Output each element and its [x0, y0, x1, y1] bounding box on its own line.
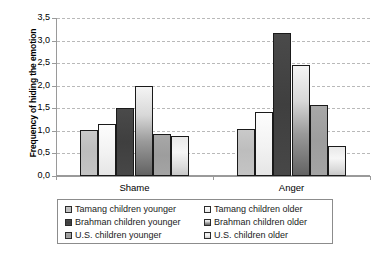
x-axis-group-separator [56, 176, 57, 180]
bar [116, 108, 134, 176]
legend-item: U.S. children younger [65, 229, 181, 242]
bar [273, 33, 291, 176]
y-tick-mark [52, 131, 57, 132]
legend-column-younger: Tamang children youngerBrahman children … [65, 203, 181, 242]
x-axis-label-shame: Shame [56, 182, 213, 193]
gridline [57, 63, 370, 64]
legend-item: Brahman children older [204, 216, 307, 229]
legend-column-older: Tamang children olderBrahman children ol… [204, 203, 307, 242]
legend-item: Tamang children younger [65, 203, 181, 216]
legend-swatch-icon [65, 232, 72, 239]
y-tick-label: 3,5 [22, 12, 50, 22]
x-axis-label-anger: Anger [213, 182, 370, 193]
legend-label: Brahman children younger [75, 216, 181, 229]
y-tick-label: 1,5 [22, 102, 50, 112]
x-axis-group-separator [370, 176, 371, 180]
bar [98, 124, 116, 176]
y-tick-mark [52, 108, 57, 109]
gridline [57, 18, 370, 19]
gridline [57, 86, 370, 87]
bar [171, 136, 189, 176]
bar [153, 134, 171, 176]
gridline [57, 41, 370, 42]
legend-swatch-icon [65, 206, 72, 213]
figure-caption [4, 252, 384, 259]
y-tick-label: 1,0 [22, 125, 50, 135]
legend-item: U.S. children older [204, 229, 307, 242]
legend-swatch-icon [204, 219, 211, 226]
y-tick-label: 3,0 [22, 35, 50, 45]
y-tick-mark [52, 153, 57, 154]
legend-swatch-icon [204, 232, 211, 239]
plot-area: 0,00,51,01,52,02,53,03,5 [56, 18, 370, 176]
y-tick-label: 2,0 [22, 80, 50, 90]
y-axis-line [56, 18, 57, 176]
y-tick-mark [52, 63, 57, 64]
y-tick-label: 0,0 [22, 170, 50, 180]
legend-label: Tamang children older [214, 203, 303, 216]
legend-swatch-icon [204, 206, 211, 213]
y-tick-label: 2,5 [22, 57, 50, 67]
legend-label: Brahman children older [214, 216, 307, 229]
y-tick-mark [52, 18, 57, 19]
bar [310, 105, 328, 176]
y-tick-mark [52, 41, 57, 42]
bar [255, 112, 273, 176]
bar [237, 129, 255, 176]
legend-label: U.S. children younger [75, 229, 162, 242]
bar [80, 130, 98, 176]
legend-label: Tamang children younger [75, 203, 176, 216]
legend-item: Tamang children older [204, 203, 307, 216]
bar [292, 65, 310, 176]
chart-legend: Tamang children youngerBrahman children … [57, 199, 333, 244]
legend-swatch-icon [65, 219, 72, 226]
y-tick-label: 0,5 [22, 147, 50, 157]
bar [328, 146, 346, 176]
legend-item: Brahman children younger [65, 216, 181, 229]
y-tick-mark [52, 86, 57, 87]
bar-chart-figure: Frequency of hiding the emotion 0,00,51,… [0, 0, 389, 259]
x-axis-group-separator [213, 176, 214, 180]
bar [135, 86, 153, 176]
legend-label: U.S. children older [214, 229, 288, 242]
